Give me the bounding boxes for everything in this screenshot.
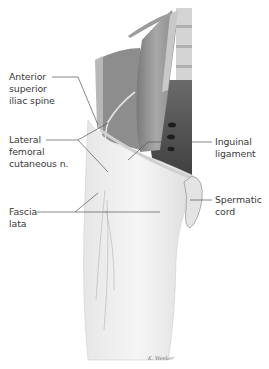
artist-signature: K. Wesker	[147, 355, 174, 361]
label-line: cutaneous n.	[9, 158, 69, 170]
label-line: Inguinal	[215, 136, 256, 148]
abdominal-wall-cut	[95, 56, 103, 130]
label-fascia-lata: Fascia lata	[9, 206, 37, 230]
label-line: ligament	[215, 148, 256, 160]
label-line: Fascia	[9, 206, 37, 218]
leader-asis	[52, 77, 98, 125]
label-lateral-femoral-cutaneous-nerve: Lateral femoral cutaneous n.	[9, 134, 69, 170]
label-line: Anterior	[9, 71, 55, 83]
label-inguinal-ligament: Inguinal ligament	[215, 136, 256, 160]
label-line: iliac spine	[9, 95, 55, 107]
label-anterior-superior-iliac-spine: Anterior superior iliac spine	[9, 71, 55, 107]
label-line: Lateral	[9, 134, 69, 146]
anatomy-illustration: K. Wesker	[0, 0, 269, 369]
label-line: cord	[215, 206, 262, 218]
label-line: Spermatic	[215, 194, 262, 206]
spermatic-cord-shape	[184, 176, 202, 228]
label-line: lata	[9, 218, 37, 230]
label-spermatic-cord: Spermatic cord	[215, 194, 262, 218]
label-line: femoral	[9, 146, 69, 158]
label-line: superior	[9, 83, 55, 95]
